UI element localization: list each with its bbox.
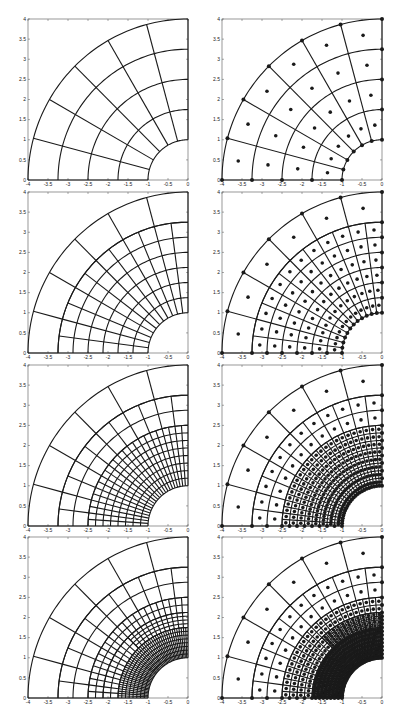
node-point [341, 234, 345, 238]
node-point [309, 486, 313, 490]
boundary-node-point [225, 136, 229, 140]
node-point [320, 481, 324, 485]
y-tick-label: 2.5 [213, 249, 220, 255]
node-point [329, 461, 333, 465]
node-point [318, 657, 322, 661]
node-point [307, 517, 311, 521]
node-point [357, 462, 361, 466]
boundary-node-point [380, 454, 384, 458]
node-point [374, 465, 378, 469]
node-point [302, 500, 306, 504]
y-tick-label: 1 [23, 482, 26, 488]
node-point [333, 427, 337, 431]
node-point [353, 295, 357, 299]
node-point [319, 339, 323, 343]
boundary-node-point [380, 77, 384, 81]
node-point [236, 332, 240, 336]
node-point [342, 470, 346, 474]
node-point [371, 428, 375, 432]
node-point [329, 519, 333, 523]
x-tick-label: -3 [260, 699, 265, 705]
boundary-node-point [365, 314, 369, 318]
node-point [335, 640, 339, 644]
node-point [350, 263, 354, 267]
y-tick-label: 4 [23, 534, 26, 540]
boundary-node-point [329, 696, 333, 700]
y-tick-label: 1 [217, 654, 220, 660]
node-point [265, 607, 269, 611]
node-point [368, 625, 372, 629]
node-point [311, 290, 315, 294]
node-point [286, 502, 290, 506]
y-tick-label: 0 [217, 177, 220, 183]
boundary-node-point [380, 17, 384, 21]
node-point [266, 163, 270, 167]
node-point [377, 304, 381, 308]
node-point [358, 602, 362, 606]
node-point [332, 628, 336, 632]
boundary-node-point [380, 595, 384, 599]
y-tick-label: 1.5 [213, 116, 220, 122]
node-point [326, 645, 330, 649]
node-point [352, 621, 356, 625]
y-tick-label: 3.5 [19, 36, 26, 42]
node-point [275, 330, 279, 334]
node-point [339, 268, 343, 272]
node-point [337, 145, 341, 149]
node-point [336, 634, 340, 638]
node-point [375, 473, 379, 477]
node-point [292, 235, 296, 239]
node-point [312, 249, 316, 253]
boundary-node-point [380, 652, 384, 656]
boundary-node-point [336, 696, 340, 700]
node-point [321, 640, 325, 644]
node-point [299, 280, 303, 284]
node-point [309, 658, 313, 662]
boundary-node-point [340, 351, 344, 355]
x-tick-label: -3.5 [44, 527, 53, 533]
node-point [329, 641, 333, 645]
node-point [373, 243, 377, 247]
panel-0-0-mesh: -4-3.5-3-2.5-2-1.5-1-0.5000.511.522.533.… [19, 16, 190, 187]
node-point [373, 450, 377, 454]
node-point [315, 463, 319, 467]
boundary-node-point [345, 158, 349, 162]
node-point [265, 262, 269, 266]
node-point [300, 683, 304, 687]
node-point [348, 99, 352, 103]
node-point [372, 617, 376, 621]
y-tick-label: 4 [217, 362, 220, 368]
node-point [360, 437, 364, 441]
node-point [299, 453, 303, 457]
y-tick-label: 0.5 [213, 157, 220, 163]
x-tick-label: -2.5 [84, 354, 93, 360]
x-tick-label: -4 [26, 354, 31, 360]
x-tick-label: -1.5 [318, 354, 327, 360]
node-point [349, 315, 353, 319]
node-point [306, 662, 310, 666]
x-tick-label: -0.5 [164, 354, 173, 360]
node-point [341, 407, 345, 411]
node-point [365, 475, 369, 479]
node-point [373, 123, 377, 127]
node-point [336, 523, 340, 527]
node-point [366, 436, 370, 440]
node-point [374, 258, 378, 262]
node-point [377, 607, 381, 611]
node-point [378, 442, 382, 446]
boundary-node-point [241, 98, 245, 102]
x-tick-label: 0 [187, 354, 190, 360]
node-point [335, 336, 339, 340]
boundary-node-point [265, 351, 269, 355]
boundary-node-point [380, 220, 384, 224]
node-point [284, 515, 288, 519]
node-point [314, 626, 318, 630]
node-point [321, 331, 325, 335]
node-point [236, 677, 240, 681]
node-point [356, 575, 360, 579]
node-point [308, 472, 312, 476]
y-tick-label: 1.5 [213, 634, 220, 640]
boundary-node-point [380, 637, 384, 641]
node-point [288, 345, 292, 349]
boundary-node-point [380, 311, 384, 315]
